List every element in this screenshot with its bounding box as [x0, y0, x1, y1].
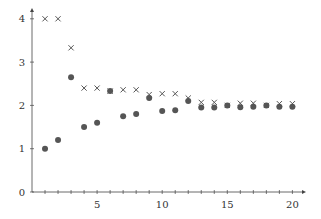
dot-marker-icon — [55, 137, 61, 143]
y-tick-label: 2 — [19, 100, 25, 111]
cross-marker-icon — [68, 45, 73, 50]
cross-marker-icon — [95, 85, 100, 90]
dot-marker-icon — [107, 88, 113, 94]
dot-marker-icon — [94, 120, 100, 126]
cross-marker-icon — [160, 91, 165, 96]
cross-marker-icon — [212, 100, 217, 105]
dot-marker-icon — [276, 104, 282, 110]
dot-marker-icon — [185, 98, 191, 104]
dot-marker-icon — [68, 74, 74, 80]
cross-marker-icon — [199, 100, 204, 105]
cross-marker-icon — [173, 91, 178, 96]
scatter-chart: 510152001234 — [0, 0, 321, 219]
dot-marker-icon — [211, 105, 217, 111]
y-axis-arrow-icon — [30, 8, 34, 12]
x-tick-label: 5 — [94, 199, 100, 210]
dot-marker-icon — [42, 146, 48, 152]
data-points — [42, 16, 295, 152]
x-axis-arrow-icon — [302, 190, 306, 194]
y-tick-label: 4 — [19, 13, 25, 24]
cross-marker-icon — [121, 87, 126, 92]
x-tick-label: 10 — [156, 199, 169, 210]
x-tick-label: 15 — [221, 199, 234, 210]
y-tick-label: 1 — [19, 143, 25, 154]
dot-marker-icon — [120, 113, 126, 119]
cross-marker-icon — [42, 16, 47, 21]
dot-marker-icon — [133, 111, 139, 117]
dot-marker-icon — [146, 95, 152, 101]
y-tick-label: 0 — [19, 187, 25, 198]
dot-marker-icon — [263, 102, 269, 108]
cross-marker-icon — [134, 87, 139, 92]
dot-marker-icon — [237, 104, 243, 110]
dot-marker-icon — [250, 104, 256, 110]
dot-marker-icon — [159, 108, 165, 114]
x-tick-label: 20 — [286, 199, 299, 210]
dot-marker-icon — [81, 124, 87, 130]
cross-marker-icon — [81, 85, 86, 90]
dot-marker-icon — [172, 107, 178, 113]
dot-marker-icon — [224, 102, 230, 108]
dot-marker-icon — [198, 105, 204, 111]
dot-marker-icon — [289, 104, 295, 110]
cross-marker-icon — [55, 16, 60, 21]
y-tick-label: 3 — [19, 57, 25, 68]
